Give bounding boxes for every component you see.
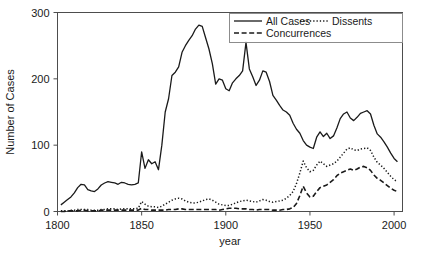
x-tick-label: 1850 [129, 219, 153, 231]
y-tick-label: 200 [31, 73, 49, 85]
legend-label-concurrences: Concurrences [266, 27, 331, 39]
x-tick-label: 1950 [298, 219, 322, 231]
data-series-group [61, 25, 398, 211]
x-axis-title: year [219, 235, 241, 247]
series-line-concurrences [61, 166, 398, 211]
y-tick-label: 100 [31, 139, 49, 151]
chart-figure: 0100200300 18001850190019502000 Number o… [0, 0, 425, 253]
x-tick-label: 2000 [382, 219, 406, 231]
legend-label-dissents: Dissents [332, 15, 372, 27]
series-line-dissents [61, 148, 398, 211]
line-chart: 0100200300 18001850190019502000 Number o… [0, 0, 425, 253]
y-tick-label: 0 [43, 206, 49, 218]
series-line-all-cases [61, 25, 398, 205]
y-axis-title: Number of Cases [4, 69, 16, 155]
y-tick-label: 300 [31, 7, 49, 19]
x-tick-label: 1900 [214, 219, 238, 231]
x-axis-ticks: 18001850190019502000 [45, 212, 406, 231]
chart-legend: All CasesDissentsConcurrences [230, 14, 403, 43]
x-tick-label: 1800 [45, 219, 69, 231]
y-axis-ticks: 0100200300 [31, 7, 57, 218]
legend-items: All CasesDissentsConcurrences [234, 15, 372, 39]
